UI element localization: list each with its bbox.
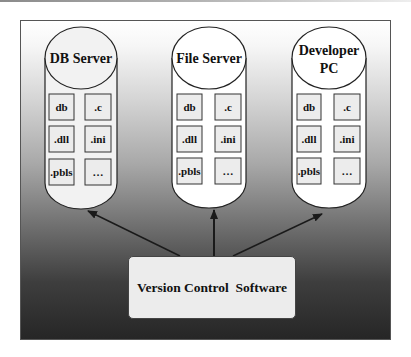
file-item: … [342, 165, 353, 177]
arrow-to-developer-pc [233, 214, 322, 256]
file-item: .dll [302, 133, 317, 145]
file-item: db [183, 101, 195, 113]
file-item: .ini [340, 133, 355, 145]
file-item: … [93, 166, 104, 178]
node-title: DB Server [50, 51, 113, 66]
node-developer-pc: Developer PC db .c .dll .ini .pbls … [292, 27, 366, 208]
node-title: File Server [176, 51, 242, 66]
file-item: .pbls [178, 165, 201, 177]
node-title-line-2: PC [320, 61, 339, 76]
file-item: .c [94, 101, 102, 113]
arrow-to-db-server [88, 211, 180, 256]
node-title-line-1: Developer [299, 43, 360, 58]
file-item: .ini [221, 133, 236, 145]
file-item: db [55, 101, 67, 113]
file-item: .dll [182, 133, 197, 145]
cylinder-top [292, 27, 366, 89]
version-control-software-box: Version Control Software [128, 256, 296, 319]
file-item: db [303, 101, 315, 113]
node-db-server: DB Server db .c .dll .ini .pbls … [45, 27, 117, 209]
file-item: .dll [54, 133, 69, 145]
file-item: .pbls [50, 166, 73, 178]
file-item: .pbls [298, 165, 321, 177]
file-item: .ini [91, 133, 106, 145]
node-file-server: File Server db .c .dll .ini .pbls … [172, 27, 246, 208]
file-item: .c [224, 101, 232, 113]
file-item: .c [343, 101, 351, 113]
hub-label: Version Control Software [137, 280, 287, 296]
file-item: … [223, 165, 234, 177]
